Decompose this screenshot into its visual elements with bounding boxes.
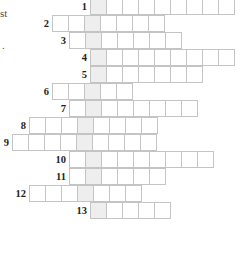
crossword-cell[interactable]: [122, 202, 139, 219]
crossword-cell[interactable]: [108, 134, 125, 151]
crossword-cell[interactable]: [148, 15, 165, 32]
crossword-cell[interactable]: [202, 0, 219, 15]
crossword-cell[interactable]: [202, 49, 219, 66]
crossword-cell[interactable]: [181, 151, 198, 168]
crossword-cell[interactable]: [100, 15, 117, 32]
crossword-cell[interactable]: [181, 100, 198, 117]
crossword-cell[interactable]: [101, 100, 118, 117]
crossword-cell[interactable]: [138, 202, 155, 219]
crossword-cell[interactable]: [154, 66, 171, 83]
crossword-cell[interactable]: [141, 117, 158, 134]
crossword-cell[interactable]: [100, 83, 117, 100]
crossword-cell[interactable]: [117, 32, 134, 49]
crossword-cell[interactable]: [106, 49, 123, 66]
crossword-cell[interactable]: [101, 168, 118, 185]
crossword-cell[interactable]: [106, 0, 123, 15]
crossword-cell[interactable]: [44, 134, 61, 151]
crossword-cell[interactable]: [132, 15, 149, 32]
crossword-cell-highlighted[interactable]: [85, 32, 102, 49]
crossword-cell[interactable]: [165, 151, 182, 168]
crossword-cell[interactable]: [149, 100, 166, 117]
crossword-cell[interactable]: [138, 49, 155, 66]
crossword-cell[interactable]: [106, 66, 123, 83]
crossword-row: 2: [52, 15, 171, 32]
crossword-cell[interactable]: [109, 185, 126, 202]
crossword-cell[interactable]: [106, 202, 123, 219]
crossword-cell[interactable]: [138, 0, 155, 15]
crossword-cell[interactable]: [117, 168, 134, 185]
crossword-cell[interactable]: [92, 134, 109, 151]
crossword-cell[interactable]: [165, 100, 182, 117]
crossword-cell[interactable]: [122, 66, 139, 83]
crossword-cell[interactable]: [52, 15, 69, 32]
crossword-cell[interactable]: [125, 185, 142, 202]
crossword-cell[interactable]: [138, 66, 155, 83]
crossword-cell[interactable]: [29, 185, 46, 202]
crossword-cell[interactable]: [218, 49, 235, 66]
crossword-cell[interactable]: [29, 117, 46, 134]
crossword-row: 10: [69, 151, 222, 168]
crossword-cell[interactable]: [154, 49, 171, 66]
crossword-cell[interactable]: [125, 117, 142, 134]
crossword-cell-highlighted[interactable]: [90, 66, 107, 83]
crossword-cell-highlighted[interactable]: [85, 151, 102, 168]
crossword-cell[interactable]: [101, 151, 118, 168]
crossword-cell[interactable]: [122, 49, 139, 66]
crossword-cell[interactable]: [170, 0, 187, 15]
crossword-cell-highlighted[interactable]: [84, 83, 101, 100]
crossword-cell[interactable]: [154, 0, 171, 15]
crossword-cell[interactable]: [69, 32, 86, 49]
crossword-cell[interactable]: [133, 151, 150, 168]
crossword-cell[interactable]: [93, 117, 110, 134]
crossword-cell[interactable]: [60, 134, 77, 151]
crossword-cell[interactable]: [186, 0, 203, 15]
crossword-cell[interactable]: [140, 134, 157, 151]
crossword-cell[interactable]: [93, 185, 110, 202]
crossword-cell[interactable]: [52, 83, 69, 100]
crossword-cell[interactable]: [69, 168, 86, 185]
crossword-cell[interactable]: [61, 185, 78, 202]
crossword-cell[interactable]: [124, 134, 141, 151]
crossword-cell-highlighted[interactable]: [76, 134, 93, 151]
row-number-label: 2: [44, 15, 52, 32]
crossword-cell[interactable]: [61, 117, 78, 134]
crossword-cell[interactable]: [218, 0, 235, 15]
crossword-cell[interactable]: [149, 168, 166, 185]
crossword-cell[interactable]: [165, 32, 182, 49]
crossword-cell[interactable]: [116, 15, 133, 32]
crossword-cell[interactable]: [170, 49, 187, 66]
crossword-cell[interactable]: [101, 32, 118, 49]
crossword-cell[interactable]: [69, 100, 86, 117]
crossword-cell[interactable]: [68, 15, 85, 32]
crossword-cell[interactable]: [133, 32, 150, 49]
crossword-cell[interactable]: [154, 202, 171, 219]
crossword-cell[interactable]: [170, 66, 187, 83]
crossword-cell-highlighted[interactable]: [84, 15, 101, 32]
crossword-cell[interactable]: [117, 100, 134, 117]
crossword-cell[interactable]: [45, 117, 62, 134]
crossword-cell[interactable]: [116, 83, 133, 100]
crossword-cell[interactable]: [69, 151, 86, 168]
crossword-cell-highlighted[interactable]: [90, 202, 107, 219]
crossword-cell[interactable]: [133, 168, 150, 185]
crossword-cell[interactable]: [197, 151, 214, 168]
crossword-cell-highlighted[interactable]: [77, 117, 94, 134]
crossword-cell[interactable]: [68, 83, 85, 100]
crossword-cell-highlighted[interactable]: [90, 0, 107, 15]
crossword-cell[interactable]: [12, 134, 29, 151]
crossword-cell-highlighted[interactable]: [85, 100, 102, 117]
crossword-cell-highlighted[interactable]: [90, 49, 107, 66]
crossword-cell[interactable]: [28, 134, 45, 151]
crossword-cell-highlighted[interactable]: [77, 185, 94, 202]
crossword-cell[interactable]: [186, 66, 203, 83]
crossword-row: 7: [69, 100, 205, 117]
crossword-cell[interactable]: [117, 151, 134, 168]
crossword-cell[interactable]: [109, 117, 126, 134]
crossword-cell[interactable]: [149, 32, 166, 49]
crossword-cell[interactable]: [149, 151, 166, 168]
crossword-cell-highlighted[interactable]: [85, 168, 102, 185]
crossword-cell[interactable]: [133, 100, 150, 117]
crossword-cell[interactable]: [45, 185, 62, 202]
crossword-cell[interactable]: [122, 0, 139, 15]
crossword-cell[interactable]: [186, 49, 203, 66]
